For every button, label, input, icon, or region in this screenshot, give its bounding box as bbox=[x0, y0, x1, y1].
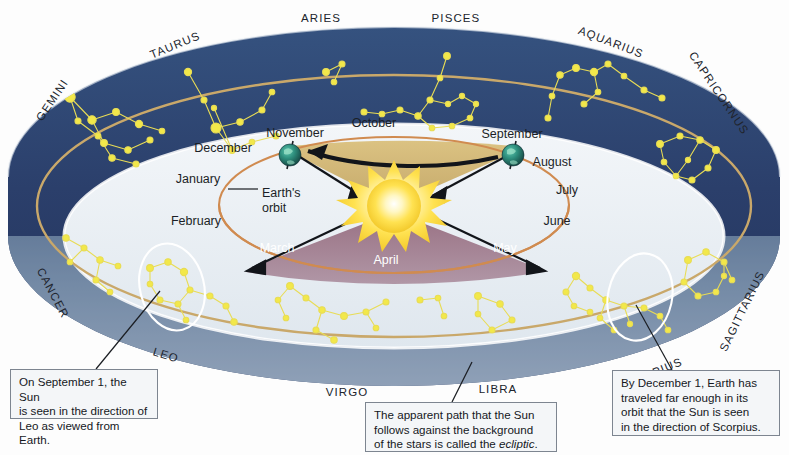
scorpius-callout-line-4: in the direction of Scorpius. bbox=[621, 420, 772, 435]
ecliptic-callout-line-3: of the stars is called the ecliptic. bbox=[374, 437, 549, 452]
ecliptic-callout-emphasis-term: ecliptic bbox=[499, 437, 534, 450]
month-label-april: April bbox=[373, 253, 398, 267]
month-label-december: December bbox=[194, 141, 252, 155]
month-label-july: July bbox=[556, 183, 578, 197]
ecliptic-callout: The apparent path that the Sunfollows ag… bbox=[365, 402, 557, 452]
constellation-label-virgo: VIRGO bbox=[326, 386, 369, 398]
month-label-march: March bbox=[260, 241, 295, 255]
leo-callout-line-3: Leo as viewed from Earth. bbox=[19, 419, 150, 448]
constellation-label-pisces: PISCES bbox=[432, 12, 481, 24]
month-label-january: January bbox=[176, 172, 220, 186]
scorpius-callout-line-3: orbit that the Sun is seen bbox=[621, 405, 772, 420]
leo-callout-line-2: is seen in the direction of bbox=[19, 404, 150, 419]
month-label-june: June bbox=[543, 214, 570, 228]
leo-callout: On September 1, the Sunis seen in the di… bbox=[10, 369, 158, 419]
scorpius-callout-line-2: traveled far enough in its bbox=[621, 391, 772, 406]
earth-orbit-annotation: Earth'sorbit bbox=[262, 186, 301, 216]
scorpius-callout: By December 1, Earth hastraveled far eno… bbox=[612, 370, 780, 436]
month-label-may: May bbox=[493, 241, 517, 255]
earth-orbit-annotation-line1: Earth's bbox=[262, 186, 301, 201]
month-label-february: February bbox=[171, 214, 221, 228]
constellation-label-aries: ARIES bbox=[301, 12, 341, 24]
ecliptic-callout-line-3-text: of the stars is called the bbox=[374, 437, 499, 450]
month-label-august: August bbox=[533, 155, 572, 169]
month-label-october: October bbox=[352, 116, 396, 130]
constellation-label-libra: LIBRA bbox=[479, 383, 518, 395]
ecliptic-callout-line-2: follows against the background bbox=[374, 423, 549, 438]
earth-orbit-annotation-line2: orbit bbox=[262, 201, 301, 216]
leo-callout-line-1: On September 1, the Sun bbox=[19, 375, 150, 404]
ecliptic-callout-line-1: The apparent path that the Sun bbox=[374, 408, 549, 423]
scorpius-callout-line-1: By December 1, Earth has bbox=[621, 376, 772, 391]
month-label-november: November bbox=[266, 126, 324, 140]
month-label-september: September bbox=[481, 127, 542, 141]
diagram-canvas: GEMINITAURUSARIESPISCESAQUARIUSCAPRICORN… bbox=[0, 0, 789, 455]
ecliptic-callout-line-suffix: . bbox=[534, 437, 537, 450]
